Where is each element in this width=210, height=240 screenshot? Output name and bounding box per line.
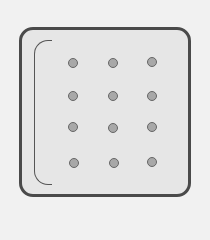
grid-dot-icon [108,58,118,68]
grid-dot-icon [109,158,119,168]
grid-dot-icon [147,122,157,132]
grid-dot-icon [68,91,78,101]
grid-dot-icon [147,91,157,101]
grid-dot-icon [147,57,157,67]
grid-dot-icon [68,58,78,68]
grid-dot-icon [108,91,118,101]
grid-dot-icon [69,158,79,168]
grid-dot-icon [108,123,118,133]
grid-dot-icon [147,157,157,167]
grid-dot-icon [68,122,78,132]
bracket-highlight-icon [34,40,52,185]
